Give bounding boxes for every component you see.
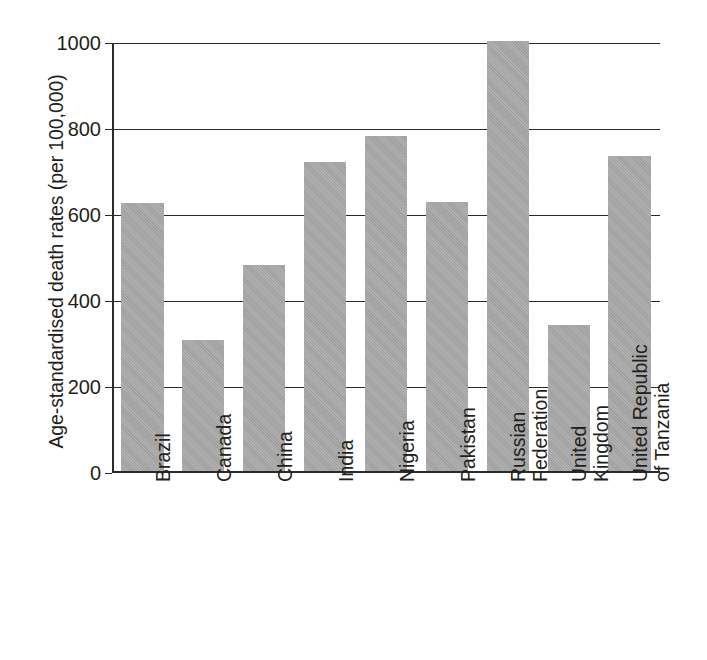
x-tick-label: Canada [213,414,235,482]
x-tick-label: Nigeria [396,420,418,482]
y-axis-tick [105,129,112,130]
y-axis-tick [105,301,112,302]
y-axis-tick [105,215,112,216]
y-tick-label: 800 [68,118,101,141]
x-tick-label: India [335,440,357,482]
gridline [112,129,660,130]
bar-chart-figure: Age-standardised death rates (per 100,00… [0,0,707,660]
y-axis-tick [105,387,112,388]
y-axis-tick [105,473,112,474]
y-tick-label: 0 [90,462,101,485]
x-tick-label: Brazil [152,433,174,482]
y-tick-label: 1000 [57,32,102,55]
y-tick-label: 600 [68,204,101,227]
x-tick-label: Pakistan [457,407,479,482]
y-axis-title: Age-standardised death rates (per 100,00… [45,32,68,492]
x-tick-label: UnitedKingdom [568,405,612,482]
gridline [112,43,660,44]
bar [304,162,346,472]
bar [121,203,163,472]
y-axis-tick [105,43,112,44]
x-tick-label: United Republicof Tanzania [629,344,673,482]
x-tick-label: RussianFederation [507,389,551,482]
x-tick-label: China [274,431,296,482]
y-axis-line [112,43,114,473]
y-tick-label: 200 [68,376,101,399]
y-tick-label: 400 [68,290,101,313]
